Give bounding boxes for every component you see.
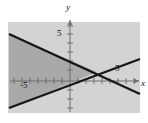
x-axis-tick-label-negative-5: -5: [20, 81, 28, 90]
x-axis-tick-label-5: 5: [115, 64, 120, 73]
y-axis-label: y: [66, 3, 70, 12]
coordinate-plane: [0, 0, 148, 123]
x-axis-label: x: [141, 79, 145, 88]
y-axis-tick-label-5: 5: [57, 29, 62, 38]
graph-figure: y x 5 5 -5: [0, 0, 148, 123]
